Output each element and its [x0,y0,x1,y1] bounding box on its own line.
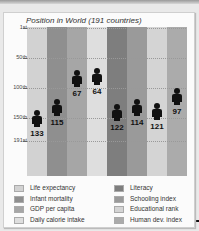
legend-swatch [14,206,24,213]
rank-value: 133 [24,129,50,138]
y-tick-label: 1st [4,24,27,30]
rank-value: 64 [84,87,110,96]
legend-label: Schooling index [130,195,176,202]
legend-swatch [114,206,124,213]
gridline [27,58,186,59]
legend-swatch [14,196,24,203]
legend-label: GDP per capita [30,205,74,212]
legend-swatch [114,185,124,192]
legend-label: Educational rank [130,205,178,212]
column-literacy [107,27,127,176]
column-gdp-per-capita [67,27,87,176]
legend-swatch [14,185,24,192]
rank-value: 97 [164,107,190,116]
legend-label: Human dev. index [130,216,182,223]
legend-label: Daily calorie intake [30,216,85,223]
y-tick-label: 50th [4,54,27,60]
column-daily-calorie-intake [87,27,107,176]
y-tick-label: 100th [4,84,27,90]
y-tick-label: 150th [4,114,27,120]
legend-label: Literacy [130,184,153,191]
chart-title: Position in World (191 countries) [26,16,142,25]
legend-label: Life expectancy [30,184,75,191]
legend-swatch [14,217,24,224]
legend-label: Infant mortality [30,195,73,202]
rank-value: 115 [44,118,70,127]
page-top-edge [0,0,199,4]
rank-value: 121 [144,122,170,131]
gridline [27,28,186,29]
column-life-expectancy [27,27,47,176]
gridline [27,141,186,142]
legend-swatch [114,196,124,203]
plot-area: 133115676412211412197 [27,27,186,176]
legend-swatch [114,217,124,224]
column-educational-rank [147,27,167,176]
